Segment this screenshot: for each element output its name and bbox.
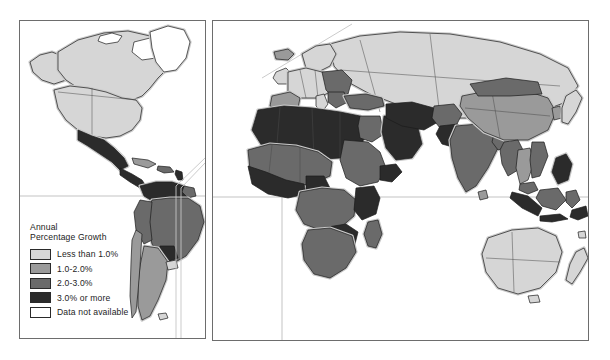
legend-swatch-2-to-3 [30,278,51,289]
legend-label-no-data: Data not available [57,307,129,317]
legend-swatch-no-data [30,307,51,318]
legend-item-3-or-more: 3.0% or more [30,291,182,306]
legend-label-less-than-1: Less than 1.0% [57,249,118,259]
legend-title: Annual Percentage Growth [30,222,182,243]
legend-item-1-to-2: 1.0-2.0% [30,261,182,276]
legend-label-3-or-more: 3.0% or more [57,293,110,303]
legend-item-2-to-3: 2.0-3.0% [30,276,182,291]
legend-swatch-3-or-more [30,292,51,303]
map-panel-eastern-hemisphere [212,20,589,341]
legend-swatch-1-to-2 [30,263,51,274]
map-legend: Annual Percentage Growth Less than 1.0% … [30,222,182,320]
legend-item-less-than-1: Less than 1.0% [30,247,182,262]
legend-label-2-to-3: 2.0-3.0% [57,278,93,288]
legend-label-1-to-2: 1.0-2.0% [57,264,93,274]
legend-swatch-less-than-1 [30,249,51,260]
legend-item-no-data: Data not available [30,305,182,320]
world-map-figure: Annual Percentage Growth Less than 1.0% … [0,0,610,360]
